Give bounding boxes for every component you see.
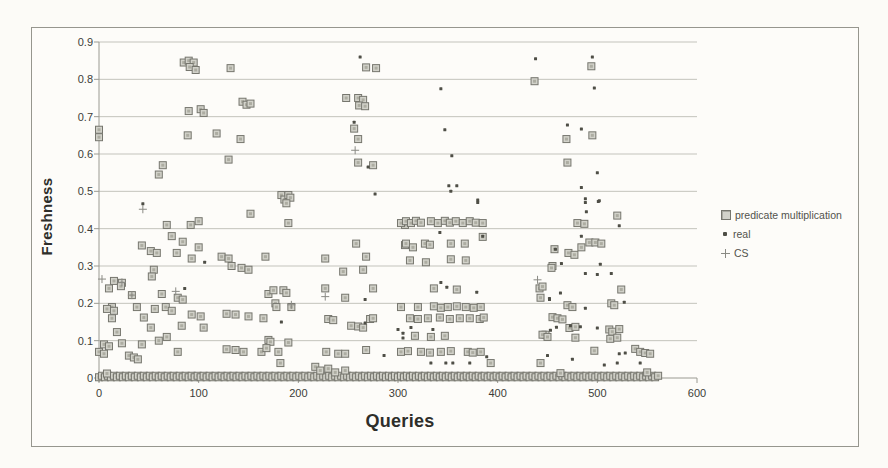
- data-point-square-speck: [115, 331, 118, 334]
- data-point-dot: [401, 337, 404, 340]
- data-point-square-speck: [262, 317, 265, 320]
- y-tick-label: 0.6: [55, 148, 93, 160]
- data-point-square-speck: [372, 164, 375, 167]
- y-tick-label: 0.9: [55, 36, 93, 48]
- data-point-square-speck: [429, 220, 432, 223]
- data-point-square-speck: [358, 104, 361, 107]
- data-point-square-speck: [439, 350, 442, 353]
- data-point-square-speck: [620, 288, 623, 291]
- data-point-square-speck: [439, 306, 442, 309]
- data-point-square-speck: [287, 341, 290, 344]
- data-point-square-speck: [357, 138, 360, 141]
- data-point-square-speck: [110, 317, 113, 320]
- data-point-square-speck: [588, 241, 591, 244]
- y-tick-label: 0: [55, 372, 93, 384]
- data-point-square-speck: [429, 335, 432, 338]
- data-point-dot: [481, 235, 484, 238]
- data-point-square-speck: [559, 372, 562, 375]
- y-axis-title: Freshness: [38, 162, 55, 272]
- x-tick-label: 500: [575, 387, 619, 399]
- data-point-dot: [580, 127, 583, 130]
- data-point-square-speck: [136, 358, 139, 361]
- data-point-square-speck: [426, 317, 429, 320]
- data-point-square-speck: [247, 268, 250, 271]
- data-point-dot: [444, 362, 447, 365]
- data-point-square-speck: [591, 134, 594, 137]
- data-point-square-speck: [419, 221, 422, 224]
- data-point-square-speck: [170, 309, 173, 312]
- data-point-square-speck: [120, 342, 123, 345]
- data-point-square-speck: [332, 319, 335, 322]
- data-point-dot: [476, 201, 479, 204]
- data-point-square-speck: [152, 268, 155, 271]
- data-point-square-speck: [408, 317, 411, 320]
- data-point-square-speck: [365, 349, 368, 352]
- data-point-square-speck: [539, 362, 542, 365]
- x-tick-label: 100: [177, 387, 221, 399]
- data-point-square-speck: [413, 334, 416, 337]
- data-point-dot: [566, 123, 569, 126]
- data-point-square-speck: [269, 340, 272, 343]
- data-point-dot: [546, 354, 549, 357]
- data-point-square-speck: [565, 138, 568, 141]
- data-point-square-speck: [372, 317, 375, 320]
- data-point-dot: [445, 286, 448, 289]
- data-point-square-speck: [404, 242, 407, 245]
- data-point-dot: [603, 363, 606, 366]
- data-point-square-speck: [287, 222, 290, 225]
- data-point-dot: [554, 248, 557, 251]
- data-point-square-speck: [455, 305, 458, 308]
- data-point-dot: [596, 171, 599, 174]
- data-point-square-speck: [234, 313, 237, 316]
- legend-label: predicate multiplication: [735, 209, 842, 221]
- data-point-square-speck: [176, 350, 179, 353]
- data-point-square-speck: [240, 266, 243, 269]
- data-point-square-speck: [566, 161, 569, 164]
- data-point-square-speck: [611, 330, 614, 333]
- data-point-dot: [618, 352, 621, 355]
- data-point-square-speck: [324, 287, 327, 290]
- data-point-dot: [183, 287, 186, 290]
- data-point-dot: [560, 262, 563, 265]
- data-point-square-speck: [399, 306, 402, 309]
- data-point-square-speck: [344, 296, 347, 299]
- data-point-square-speck: [230, 265, 233, 268]
- data-point-square-speck: [181, 298, 184, 301]
- data-point-square-speck: [419, 350, 422, 353]
- data-point-square-speck: [443, 334, 446, 337]
- data-point-square-speck: [225, 312, 228, 315]
- data-point-dot: [374, 192, 377, 195]
- data-point-square-speck: [107, 345, 110, 348]
- data-point-dot: [364, 322, 367, 325]
- data-point-dot: [618, 224, 621, 227]
- legend-label: real: [733, 228, 751, 240]
- data-point-dot: [203, 261, 206, 264]
- data-point-square-speck: [234, 349, 237, 352]
- data-point-square-speck: [481, 222, 484, 225]
- data-point-square-speck: [571, 306, 574, 309]
- data-point-square-speck: [609, 337, 612, 340]
- data-point-square-speck: [561, 318, 564, 321]
- data-point-square-speck: [345, 97, 348, 100]
- data-point-square-speck: [468, 317, 471, 320]
- data-point-square-speck: [242, 350, 245, 353]
- data-point-square-speck: [165, 335, 168, 338]
- data-point-dot: [591, 55, 594, 58]
- data-point-square-speck: [372, 287, 375, 290]
- data-point-square-speck: [613, 304, 616, 307]
- data-point-square-speck: [649, 352, 652, 355]
- data-point-square-speck: [194, 69, 197, 72]
- data-point-square-speck: [458, 317, 461, 320]
- data-point-square-speck: [657, 374, 660, 377]
- data-point-square-speck: [468, 220, 471, 223]
- data-point-square-speck: [150, 275, 153, 278]
- data-point-square-speck: [202, 111, 205, 114]
- data-point-dot: [141, 202, 144, 205]
- data-point-dot: [450, 154, 453, 157]
- data-point-square-speck: [227, 158, 230, 161]
- data-point-square-speck: [583, 222, 586, 225]
- data-point-square-speck: [365, 255, 368, 258]
- data-point-square-speck: [355, 242, 358, 245]
- data-point-square-speck: [279, 362, 282, 365]
- data-point-square-speck: [327, 367, 330, 370]
